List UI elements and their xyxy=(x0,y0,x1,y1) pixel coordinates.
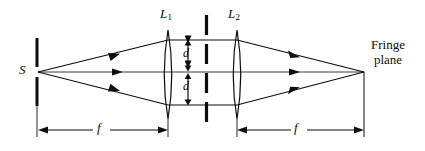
converging-lens-L1 xyxy=(164,30,172,119)
lower-ray xyxy=(38,72,364,105)
focal-length-label-right: f xyxy=(294,121,298,136)
lens2-label: L2 xyxy=(228,7,240,22)
fringe-plane-label-line1: Fringe xyxy=(371,38,405,53)
source-label: S xyxy=(19,63,26,78)
separation-label-bottom: d xyxy=(183,80,189,93)
lens2-label-subscript: 2 xyxy=(235,12,240,22)
lens1-label-subscript: 1 xyxy=(167,12,172,22)
focal-length-right-dimension xyxy=(237,127,364,134)
converging-lens-L2 xyxy=(233,30,241,119)
diagram-canvas xyxy=(0,0,425,151)
focal-length-label-left: f xyxy=(97,121,101,136)
lens1-label: L1 xyxy=(160,7,172,22)
fringe-plane-label: Fringe plane xyxy=(371,38,405,67)
fringe-plane-label-line2: plane xyxy=(371,53,405,68)
focal-length-left-dimension xyxy=(38,127,168,134)
separation-label-top: d xyxy=(183,47,189,60)
optics-ray-diagram: S L1 L2 d d f f Fringe plane xyxy=(0,0,425,151)
upper-ray xyxy=(38,40,364,72)
dimension-extension-lines xyxy=(168,119,237,137)
optical-axis xyxy=(38,69,364,76)
